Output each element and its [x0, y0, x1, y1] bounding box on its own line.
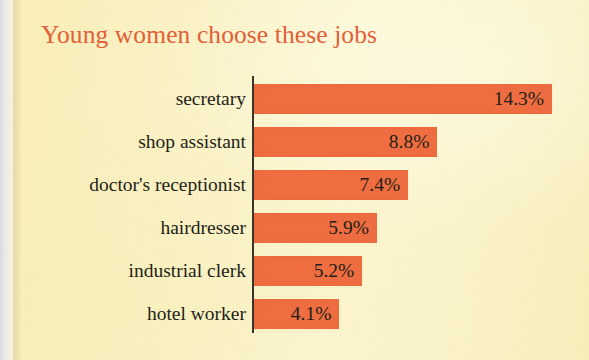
- bar-container[interactable]: 5.2%: [254, 256, 362, 286]
- bar-row: industrial clerk5.2%: [0, 256, 589, 286]
- bar-row: hotel worker4.1%: [0, 299, 589, 329]
- bar-value-label: 4.1%: [291, 299, 332, 329]
- bar-value-label: 7.4%: [360, 170, 401, 200]
- bar-category-label: doctor's receptionist: [16, 170, 246, 200]
- bar-category-label: hairdresser: [16, 213, 246, 243]
- bar-container[interactable]: 8.8%: [254, 127, 437, 157]
- bar-category-label: secretary: [16, 84, 246, 114]
- bar-value-label: 8.8%: [389, 127, 430, 157]
- bar-category-label: industrial clerk: [16, 256, 246, 286]
- bar-container[interactable]: 5.9%: [254, 213, 377, 243]
- bar-row: secretary14.3%: [0, 84, 589, 114]
- bar-row: hairdresser5.9%: [0, 213, 589, 243]
- chart-page: Young women choose these jobs secretary1…: [0, 0, 589, 360]
- bar-container[interactable]: 4.1%: [254, 299, 339, 329]
- bar-container[interactable]: 7.4%: [254, 170, 408, 200]
- bar-value-label: 5.2%: [314, 256, 355, 286]
- bar-row: shop assistant8.8%: [0, 127, 589, 157]
- bar-value-label: 5.9%: [328, 213, 369, 243]
- bar-category-label: shop assistant: [16, 127, 246, 157]
- bar-category-label: hotel worker: [16, 299, 246, 329]
- bar-value-label: 14.3%: [494, 84, 544, 114]
- bar-chart-plot-area: secretary14.3%shop assistant8.8%doctor's…: [0, 0, 589, 360]
- bar-row: doctor's receptionist7.4%: [0, 170, 589, 200]
- bar-container[interactable]: 14.3%: [254, 84, 552, 114]
- y-axis-line: [252, 76, 254, 333]
